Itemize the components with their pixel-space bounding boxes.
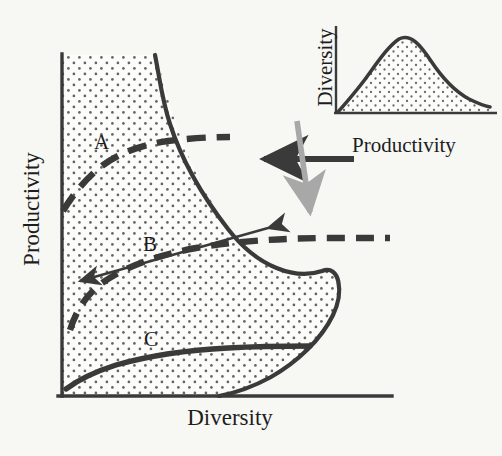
inset-x-axis-label: Productivity [352,133,456,158]
inset-y-axis-label: Diversity [313,8,338,128]
figure-graphics [0,0,502,456]
crossing-arrows-group [264,121,354,212]
inset-plot-group [334,26,497,113]
main-y-axis-label: Productivity [19,139,45,279]
inset-curve-fill [338,38,489,112]
main-x-axis-label: Diversity [130,405,330,431]
region-label-b: B [143,232,157,257]
region-label-c: C [144,327,158,352]
region-label-a: A [94,130,109,155]
gray-down-arrow [297,121,310,212]
figure-canvas: Productivity Diversity A B C Diversity P… [0,0,502,456]
